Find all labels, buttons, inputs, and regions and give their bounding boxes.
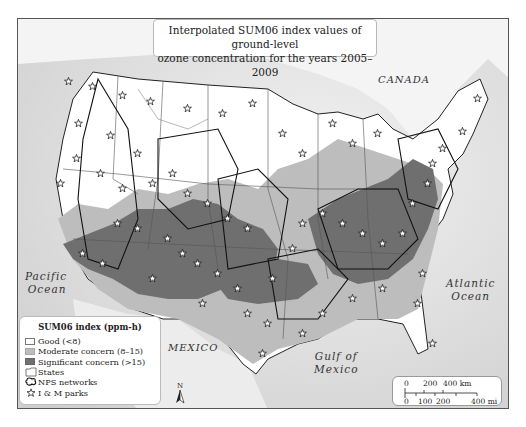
legend-title: SUM06 index (ppm-h) [20,322,160,332]
legend-item-moderate: Moderate concern (8–15) [25,346,160,356]
legend-label: Good (<8) [38,336,81,346]
atlantic-line-1: Atlantic [446,277,495,290]
legend-label: Significant concern (>15) [38,357,145,367]
gulf-line-1: Gulf of [314,350,358,363]
scale-mi-100: 100 [418,397,432,406]
north-arrow: N [174,382,186,406]
label-gulf-of-mexico: Gulf of Mexico [314,350,358,376]
legend-label: I & M parks [38,388,88,398]
north-arrow-icon [175,390,185,404]
title-line-1: Interpolated SUM06 index values of groun… [154,23,376,51]
pacific-line-1: Pacific [25,270,67,283]
map-title: Interpolated SUM06 index values of groun… [153,19,377,57]
gulf-line-2: Mexico [314,363,358,376]
states-outline-icon [25,367,37,377]
label-atlantic-ocean: Atlantic Ocean [446,277,495,303]
scale-mi-400: 400 mi [471,397,497,406]
good-swatch-icon [25,338,35,345]
legend-label: NPS networks [38,377,97,387]
legend-label: States [38,367,64,377]
legend-item-good: Good (<8) [25,336,160,346]
label-canada: CANADA [378,74,430,85]
legend: SUM06 index (ppm-h) Good (<8) Moderate c… [19,316,161,405]
legend-item-states: States [25,367,160,377]
pacific-line-2: Ocean [25,283,67,296]
legend-item-significant: Significant concern (>15) [25,357,160,367]
label-mexico: MEXICO [168,342,218,353]
scale-mi-200: 200 [436,397,450,406]
atlantic-line-2: Ocean [446,290,495,303]
scale-mi-0: 0 [404,397,409,406]
moderate-swatch-icon [25,348,35,355]
label-pacific-ocean: Pacific Ocean [25,270,67,296]
legend-item-parks: I & M parks [25,387,160,397]
nps-network-icon [25,377,37,387]
legend-item-nps-networks: NPS networks [25,377,160,387]
legend-label: Moderate concern (8–15) [38,346,143,356]
north-label: N [174,382,186,390]
scale-bar: 0 200 400 km 0 100 200 400 mi [392,376,502,406]
title-line-2: ozone concentration for the years 2005–2… [154,51,376,79]
star-icon [25,388,37,398]
significant-swatch-icon [25,358,35,365]
